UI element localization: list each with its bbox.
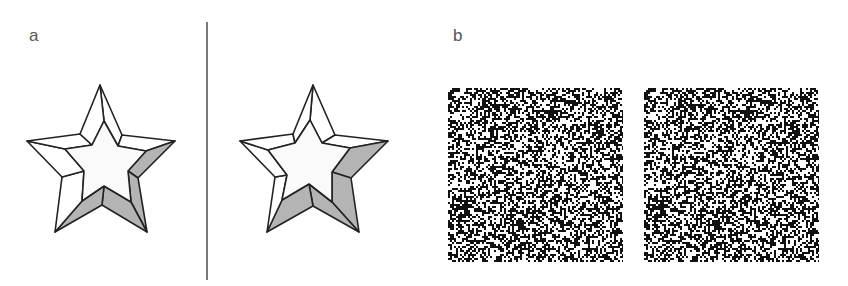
right-eye-star [240, 85, 388, 232]
random-dot-image-left [448, 88, 623, 262]
left-eye-star [27, 85, 175, 232]
star-stereo-pair [0, 0, 440, 286]
random-dot-image-right [644, 88, 819, 262]
panel-label-b: b [453, 27, 462, 44]
